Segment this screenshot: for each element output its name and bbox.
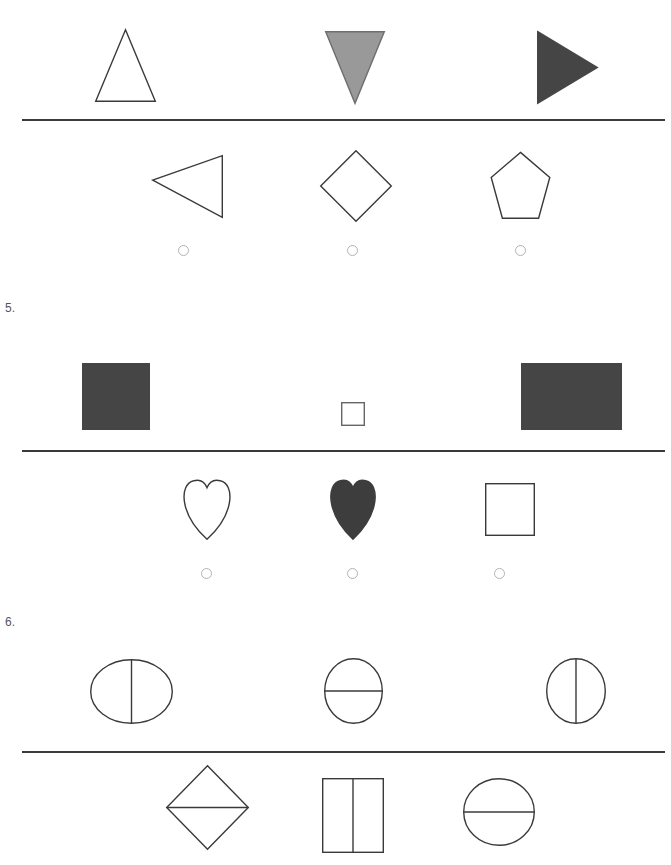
heart-dark-filled — [325, 478, 381, 540]
radio-option-3[interactable] — [494, 568, 505, 579]
rectangle-dark-wide — [521, 363, 622, 430]
rectangle-split-vertical — [322, 778, 384, 853]
triangle-left-outline — [152, 155, 223, 218]
row-5-prompt-divided-circles — [0, 0, 671, 865]
question-number: 5. — [5, 302, 15, 314]
diamond-split-horizontal — [166, 765, 249, 850]
radio-option-2[interactable] — [347, 245, 358, 256]
triangle-down-gray — [325, 31, 385, 104]
row-6-options-divided — [0, 0, 671, 865]
rule-2 — [22, 450, 665, 452]
circle-split-horizontal — [463, 778, 535, 846]
row-1-prompt-triangles — [0, 0, 671, 865]
row-4-options-hearts — [0, 0, 671, 865]
radio-option-1[interactable] — [201, 568, 212, 579]
rule-1 — [22, 119, 665, 121]
diamond-outline — [320, 150, 392, 222]
oval-split-vertical — [546, 658, 606, 724]
triangle-up-outline — [95, 29, 156, 102]
square-outline — [485, 483, 535, 536]
worksheet-page: 5.6. — [0, 0, 671, 865]
heart-outline — [178, 478, 236, 540]
square-dark-large — [82, 363, 150, 430]
row-2-options-outline — [0, 0, 671, 865]
pentagon-outline — [489, 153, 552, 218]
radio-option-3[interactable] — [515, 245, 526, 256]
row-3-prompt-rectangles — [0, 0, 671, 865]
triangle-right-dark — [537, 31, 598, 104]
square-small-outline — [341, 402, 365, 426]
radio-option-1[interactable] — [178, 245, 189, 256]
question-number: 6. — [5, 616, 15, 628]
radio-option-2[interactable] — [347, 568, 358, 579]
circle-split-vertical — [90, 659, 173, 724]
rule-3 — [22, 751, 665, 753]
circle-split-horizontal — [324, 658, 383, 724]
